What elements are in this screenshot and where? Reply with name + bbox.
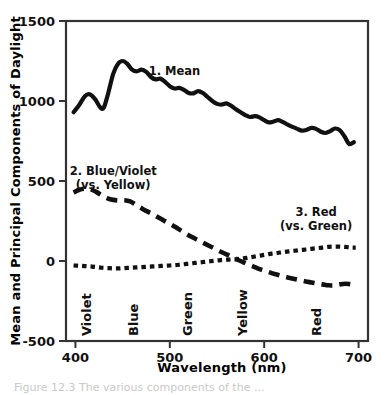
y-axis-tick-labels: -500050010001500 bbox=[19, 14, 55, 349]
y-tick-label-0: 0 bbox=[46, 254, 55, 269]
daylight-spectrum-chart: -500050010001500 400500600700 VioletBlue… bbox=[0, 0, 387, 395]
series-annotation-group: 1. Mean2. Blue/Violet(vs. Yellow)3. Red(… bbox=[70, 64, 353, 233]
y-tick-label--500: -500 bbox=[22, 334, 55, 349]
y-tick-label-1000: 1000 bbox=[19, 94, 55, 109]
annotation-blue-violet-line-2: (vs. Yellow) bbox=[76, 178, 151, 192]
band-label-yellow: Yellow bbox=[235, 289, 250, 337]
band-label-blue: Blue bbox=[126, 303, 141, 336]
annotation-mean-line-1: 1. Mean bbox=[149, 64, 201, 78]
x-tick-label-400: 400 bbox=[62, 350, 89, 365]
y-axis-title: Mean and Principal Components of Dayligh… bbox=[8, 16, 23, 346]
wavelength-band-labels: VioletBlueGreenYellowRed bbox=[79, 289, 324, 337]
y-tick-label-1500: 1500 bbox=[19, 14, 55, 29]
annotation-red-green-line-1: 3. Red bbox=[295, 205, 336, 219]
band-label-violet: Violet bbox=[79, 293, 94, 336]
figure-panel: -500050010001500 400500600700 VioletBlue… bbox=[0, 0, 387, 395]
x-tick-label-700: 700 bbox=[345, 350, 372, 365]
band-label-red: Red bbox=[309, 308, 324, 336]
annotation-blue-violet-line-1: 2. Blue/Violet bbox=[70, 164, 158, 178]
series-path-3 bbox=[74, 247, 356, 269]
y-tick-label-500: 500 bbox=[28, 174, 55, 189]
figure-caption-clipped: Figure 12.3 The various components of th… bbox=[14, 381, 374, 394]
annotation-red-green-line-2: (vs. Green) bbox=[280, 219, 352, 233]
series-path-2 bbox=[74, 189, 356, 286]
series-path-1 bbox=[74, 61, 354, 144]
band-label-green: Green bbox=[180, 292, 195, 336]
x-axis-title: Wavelength (nm) bbox=[157, 360, 286, 375]
